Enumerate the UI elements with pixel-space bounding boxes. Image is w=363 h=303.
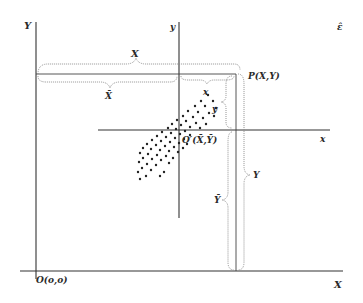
scatter-point bbox=[178, 142, 180, 144]
scatter-point bbox=[169, 141, 171, 143]
scatter-point bbox=[165, 155, 167, 157]
scatter-point bbox=[171, 123, 173, 125]
scatter-point bbox=[204, 105, 206, 107]
scatter-point bbox=[168, 162, 170, 164]
corner-mark: ε̂ bbox=[337, 22, 343, 32]
scatter-point bbox=[177, 151, 179, 153]
scatter-point bbox=[150, 169, 152, 171]
scatter-point bbox=[167, 127, 169, 129]
brace-Y bbox=[238, 74, 250, 270]
main-y-axis-label: Y bbox=[24, 20, 32, 31]
scatter-point bbox=[180, 124, 182, 126]
scatter-point bbox=[170, 132, 172, 134]
brace-Xbar bbox=[38, 76, 177, 88]
scatter-point bbox=[212, 100, 214, 102]
scatter-point bbox=[142, 147, 144, 149]
scatter-point bbox=[174, 137, 176, 139]
point-p-label: P(X,Y) bbox=[247, 71, 280, 82]
scatter-point bbox=[159, 149, 161, 151]
sub-x-axis-label: x bbox=[319, 134, 326, 144]
scatter-point bbox=[185, 120, 187, 122]
scatter-point bbox=[179, 133, 181, 135]
scatter-point bbox=[213, 115, 215, 117]
scatter-point bbox=[163, 171, 165, 173]
brace-Y-label: Y bbox=[253, 170, 261, 180]
scatter-point bbox=[173, 146, 175, 148]
scatter-point bbox=[156, 154, 158, 156]
origin-label: O(o,o) bbox=[36, 275, 68, 286]
scatter-point bbox=[159, 175, 161, 177]
scatter-point bbox=[189, 126, 191, 128]
scatter-point bbox=[139, 152, 141, 154]
scatter-point bbox=[142, 157, 144, 159]
brace-Xbar-label: X̄ bbox=[104, 90, 113, 101]
scatter-point bbox=[138, 161, 140, 163]
scatter-point bbox=[184, 130, 186, 132]
scatter-point bbox=[192, 116, 194, 118]
brace-y bbox=[221, 76, 232, 128]
scatter-point bbox=[187, 110, 189, 112]
scatter-point bbox=[155, 144, 157, 146]
brace-X-label: X bbox=[130, 48, 140, 59]
scatter-point bbox=[156, 135, 158, 137]
scatter-point bbox=[172, 157, 174, 159]
scatter-point bbox=[151, 158, 153, 160]
scatter-point bbox=[182, 147, 184, 149]
brace-y-label: y bbox=[211, 104, 218, 114]
scatter-point bbox=[182, 115, 184, 117]
scatter-point bbox=[147, 153, 149, 155]
scatter-point bbox=[137, 171, 139, 173]
scatter-point bbox=[202, 117, 204, 119]
scatter-point bbox=[208, 112, 210, 114]
scatter-point bbox=[200, 100, 202, 102]
scatter-point bbox=[197, 111, 199, 113]
sub-origin-label: O′(X̄,Ȳ) bbox=[182, 134, 217, 146]
scatter-point bbox=[141, 167, 143, 169]
sub-y-axis-label: y bbox=[169, 22, 176, 32]
scatter-point bbox=[150, 148, 152, 150]
scatter-point bbox=[155, 164, 157, 166]
scatter-point bbox=[160, 159, 162, 161]
brace-Ybar-label: Ȳ bbox=[214, 194, 222, 205]
regression-coordinate-diagram: Y X O(o,o) y x O′(X̄,Ȳ) P(X,Y) X X̄ x y … bbox=[0, 0, 363, 303]
scatter-point bbox=[146, 163, 148, 165]
scatter-point bbox=[145, 175, 147, 177]
scatter-point bbox=[139, 178, 141, 180]
scatter-point bbox=[199, 127, 201, 129]
scatter-point bbox=[205, 123, 207, 125]
scatter-point bbox=[176, 119, 178, 121]
brace-x-label: x bbox=[202, 87, 209, 97]
scatter-point bbox=[175, 128, 177, 130]
scatter-point bbox=[168, 150, 170, 152]
scatter-point bbox=[194, 105, 196, 107]
scatter-point bbox=[164, 145, 166, 147]
main-x-axis-label: X bbox=[333, 279, 343, 290]
brace-X bbox=[38, 58, 240, 74]
scatter-point bbox=[165, 136, 167, 138]
scatter-point bbox=[161, 131, 163, 133]
brace-Ybar bbox=[222, 132, 234, 270]
scatter-point bbox=[151, 139, 153, 141]
scatter-point bbox=[195, 122, 197, 124]
scatter-point bbox=[160, 140, 162, 142]
scatter-point bbox=[146, 143, 148, 145]
